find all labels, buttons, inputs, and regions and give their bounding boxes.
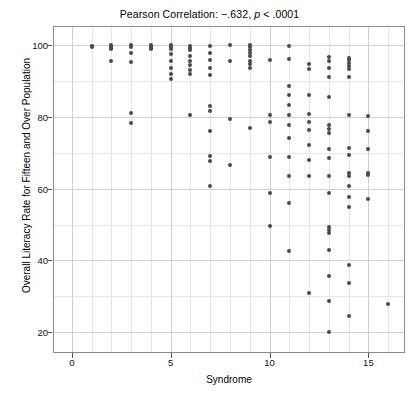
data-point xyxy=(208,58,212,62)
data-point xyxy=(347,263,351,267)
data-point xyxy=(228,43,232,47)
data-point xyxy=(169,66,173,70)
data-point xyxy=(287,93,291,97)
data-point xyxy=(287,84,291,88)
data-point xyxy=(109,47,113,51)
data-point xyxy=(307,120,311,124)
data-point xyxy=(287,123,291,127)
gridline-vertical xyxy=(72,27,73,352)
data-point xyxy=(287,136,291,140)
data-point xyxy=(248,54,252,58)
data-point xyxy=(347,195,351,199)
data-point xyxy=(268,191,272,195)
data-point xyxy=(347,153,351,157)
data-point xyxy=(228,59,232,63)
y-axis-tick-mark xyxy=(47,189,52,190)
data-point xyxy=(347,174,351,178)
chart-title: Pearson Correlation: −.632, p < .0001 xyxy=(0,8,419,20)
data-point xyxy=(287,174,291,178)
gridline-horizontal xyxy=(54,332,404,333)
gridline-horizontal-minor xyxy=(54,81,404,82)
gridline-horizontal-minor xyxy=(54,225,404,226)
plot-area xyxy=(53,26,405,353)
data-point xyxy=(327,59,331,63)
gridline-horizontal xyxy=(54,260,404,261)
data-point xyxy=(208,73,212,77)
y-axis-tick-marks xyxy=(0,26,53,353)
data-point xyxy=(129,45,133,49)
data-point xyxy=(327,248,331,252)
data-point xyxy=(169,47,173,51)
y-axis-tick-mark xyxy=(47,45,52,46)
chart-title-prefix: Pearson Correlation: −.632, xyxy=(120,8,251,20)
data-point xyxy=(327,191,331,195)
data-point xyxy=(366,173,370,177)
data-point xyxy=(307,174,311,178)
data-point xyxy=(208,104,212,108)
data-point xyxy=(307,93,311,97)
data-point xyxy=(149,47,153,51)
data-point xyxy=(307,143,311,147)
data-point xyxy=(188,72,192,76)
data-point xyxy=(268,58,272,62)
data-point xyxy=(307,62,311,66)
data-point xyxy=(287,103,291,107)
data-point xyxy=(208,129,212,133)
data-point xyxy=(268,113,272,117)
gridline-horizontal-minor xyxy=(54,296,404,297)
data-point xyxy=(287,44,291,48)
data-point xyxy=(228,163,232,167)
data-point xyxy=(327,156,331,160)
data-point xyxy=(327,231,331,235)
y-axis-tick-mark xyxy=(47,332,52,333)
data-point xyxy=(208,154,212,158)
y-axis-tick-mark xyxy=(47,260,52,261)
data-point xyxy=(366,197,370,201)
data-point xyxy=(268,224,272,228)
data-point xyxy=(129,60,133,64)
data-point xyxy=(287,57,291,61)
x-axis-tick-label: 0 xyxy=(52,357,92,368)
data-point xyxy=(268,155,272,159)
data-point xyxy=(386,302,390,306)
data-point xyxy=(208,51,212,55)
data-point xyxy=(169,52,173,56)
data-point xyxy=(169,59,173,63)
x-axis-tick-labels: 051015 xyxy=(53,353,405,373)
data-point xyxy=(327,66,331,70)
y-axis-tick-mark xyxy=(47,117,52,118)
data-point xyxy=(327,75,331,79)
data-point xyxy=(169,72,173,76)
gridline-horizontal xyxy=(54,189,404,190)
data-point xyxy=(327,299,331,303)
data-point xyxy=(307,67,311,71)
data-point xyxy=(327,131,331,135)
data-point xyxy=(287,113,291,117)
data-point xyxy=(347,146,351,150)
data-point xyxy=(347,113,351,117)
data-point xyxy=(347,67,351,71)
x-axis-tick-label: 10 xyxy=(250,357,290,368)
data-point xyxy=(347,75,351,79)
scatter-plot-figure: Pearson Correlation: −.632, p < .0001 Ov… xyxy=(0,0,419,398)
x-axis-tick-label: 5 xyxy=(151,357,191,368)
chart-title-suffix: < .0001 xyxy=(263,8,299,20)
data-point xyxy=(248,66,252,70)
chart-title-italic: p xyxy=(254,8,260,20)
gridline-vertical xyxy=(368,27,369,352)
data-point xyxy=(129,51,133,55)
data-point xyxy=(307,128,311,132)
data-point xyxy=(307,291,311,295)
data-point xyxy=(228,117,232,121)
data-point xyxy=(109,59,113,63)
data-point xyxy=(287,155,291,159)
data-point xyxy=(287,249,291,253)
data-point xyxy=(188,48,192,52)
data-point xyxy=(248,126,252,130)
data-point xyxy=(347,281,351,285)
data-point xyxy=(90,45,94,49)
data-point xyxy=(307,112,311,116)
data-point xyxy=(129,111,133,115)
data-point xyxy=(327,95,331,99)
data-point xyxy=(366,147,370,151)
